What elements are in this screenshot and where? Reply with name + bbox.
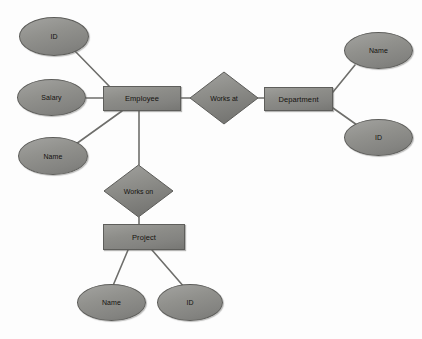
connector-edge-employee-id — [74, 50, 110, 87]
attribute-project-name[interactable]: Name — [77, 284, 146, 321]
entity-label: Employee — [125, 94, 159, 103]
entity-label: Department — [278, 95, 318, 104]
relationship-works-on[interactable]: Works on — [103, 164, 174, 218]
entity-department[interactable]: Department — [264, 87, 333, 111]
attribute-label: Name — [43, 153, 62, 160]
relationship-works-at[interactable]: Works at — [189, 71, 259, 125]
attribute-label: ID — [50, 33, 57, 40]
entity-project[interactable]: Project — [103, 224, 185, 250]
attribute-department-name[interactable]: Name — [344, 32, 413, 69]
relationship-label: Works at — [189, 71, 259, 125]
connector-edge-project-name — [112, 250, 128, 288]
relationship-label: Works on — [103, 164, 174, 218]
attribute-department-id[interactable]: ID — [344, 119, 413, 156]
attribute-employee-name[interactable]: Name — [18, 137, 88, 175]
attribute-project-id[interactable]: ID — [157, 284, 223, 321]
attribute-employee-salary[interactable]: Salary — [17, 79, 86, 116]
attribute-label: ID — [186, 299, 193, 306]
attribute-label: Name — [102, 299, 121, 306]
connector-edge-department-id — [333, 108, 357, 125]
attribute-label: ID — [375, 134, 382, 141]
attribute-label: Salary — [41, 94, 61, 101]
attribute-label: Name — [369, 47, 388, 54]
entity-label: Project — [132, 233, 156, 242]
attribute-employee-id[interactable]: ID — [19, 17, 89, 56]
connector-edge-department-name — [333, 65, 355, 92]
connector-edge-employee-name — [76, 111, 122, 144]
entity-employee[interactable]: Employee — [103, 86, 181, 111]
er-diagram-canvas: EmployeeDepartmentProjectIDSalaryNameNam… — [0, 0, 422, 339]
connector-edge-project-id — [152, 250, 185, 288]
